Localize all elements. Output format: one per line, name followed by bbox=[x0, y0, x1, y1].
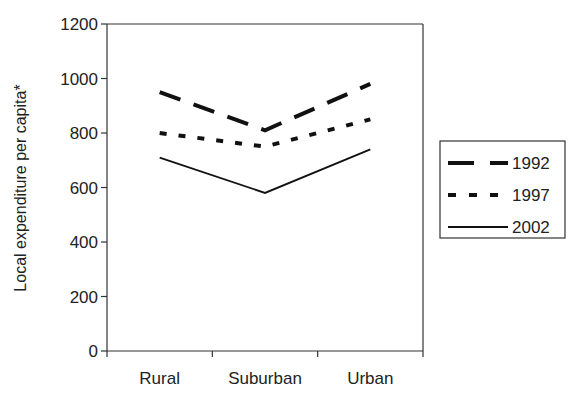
legend: 199219972002 bbox=[440, 141, 565, 238]
series-line-2002 bbox=[160, 149, 371, 193]
x-axis-ticks: RuralSuburbanUrban bbox=[107, 351, 423, 388]
line-chart: 020040060080010001200 RuralSuburbanUrban… bbox=[0, 0, 579, 402]
y-axis-label: Local expenditure per capita* bbox=[12, 84, 29, 291]
y-tick-label: 200 bbox=[70, 288, 98, 307]
series-line-1992 bbox=[160, 84, 371, 130]
y-tick-label: 1000 bbox=[60, 70, 98, 89]
series-line-1997 bbox=[160, 119, 371, 146]
y-tick-label: 600 bbox=[70, 179, 98, 198]
y-tick-label: 400 bbox=[70, 233, 98, 252]
y-tick-label: 1200 bbox=[60, 15, 98, 34]
plot-area bbox=[107, 24, 423, 351]
x-category-label: Suburban bbox=[228, 369, 302, 388]
series-lines bbox=[160, 84, 371, 193]
x-category-label: Urban bbox=[347, 369, 393, 388]
y-axis-ticks: 020040060080010001200 bbox=[60, 15, 107, 361]
x-category-label: Rural bbox=[139, 369, 180, 388]
y-tick-label: 800 bbox=[70, 124, 98, 143]
legend-label: 1997 bbox=[512, 186, 550, 205]
y-tick-label: 0 bbox=[89, 342, 98, 361]
legend-label: 1992 bbox=[512, 154, 550, 173]
legend-label: 2002 bbox=[512, 218, 550, 237]
